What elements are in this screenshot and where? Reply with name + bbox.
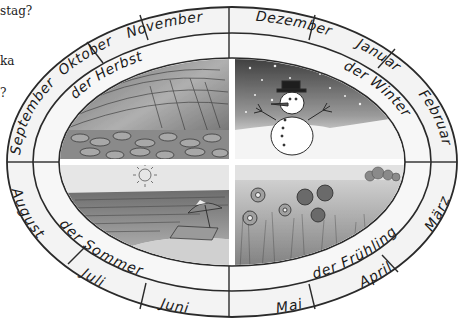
seasons-months-wheel: September Oktober November Dezember Janu… [0, 0, 465, 321]
